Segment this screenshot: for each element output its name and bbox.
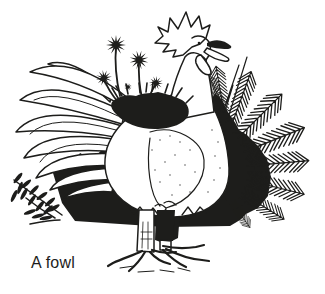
left-leg: [137, 210, 154, 252]
beak-lower: [204, 48, 229, 61]
sprig-leaf: [10, 189, 19, 202]
eye: [198, 42, 201, 45]
fowl-illustration: [0, 0, 325, 294]
daisy-flower: [148, 75, 164, 91]
daisy-bud: [124, 83, 132, 91]
caption: A fowl: [31, 253, 75, 273]
comb: [155, 12, 210, 57]
leaf-sprig: [10, 172, 62, 224]
daisy-flower: [106, 35, 126, 55]
right-leg: [156, 210, 175, 241]
book-illustration-page: A fowl: [0, 0, 325, 294]
sprig-leaf: [23, 208, 37, 216]
